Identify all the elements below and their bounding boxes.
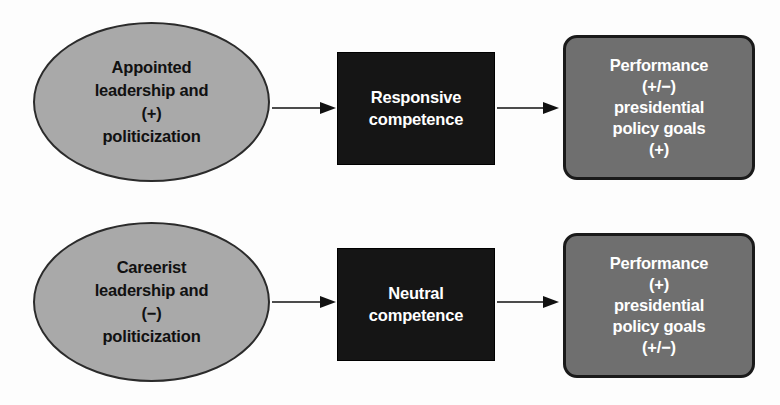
node-line: Neutral (388, 283, 443, 304)
node-line: (+) (649, 139, 669, 160)
node-line: Appointed (112, 56, 192, 79)
arrow-neutral-to-performance (497, 294, 559, 310)
node-line: (+/−) (642, 76, 676, 97)
node-line: policy goals (613, 316, 706, 337)
node-appointed-leadership: Appointed leadership and (+) politicizat… (33, 22, 270, 182)
node-line: leadership and (95, 79, 209, 102)
node-line: presidential (614, 295, 704, 316)
node-line: presidential (614, 97, 704, 118)
node-line: competence (369, 109, 463, 130)
node-line: politicization (102, 325, 200, 348)
node-line: (−) (141, 302, 161, 325)
arrow-appointed-to-responsive (272, 100, 336, 116)
node-line: leadership and (95, 279, 209, 302)
node-line: (+) (141, 102, 161, 125)
node-line: (+/−) (642, 337, 676, 358)
node-performance-policy-goals-top: Performance (+/−) presidential policy go… (563, 35, 755, 180)
node-line: Careerist (117, 256, 187, 279)
arrow-responsive-to-performance (497, 100, 559, 116)
node-careerist-leadership: Careerist leadership and (−) politicizat… (33, 222, 270, 382)
node-line: Responsive (371, 87, 462, 108)
node-line: policy goals (613, 118, 706, 139)
node-line: Performance (610, 55, 709, 76)
node-line: politicization (102, 125, 200, 148)
arrow-careerist-to-neutral (272, 294, 336, 310)
node-line: competence (369, 305, 463, 326)
node-line: (+) (649, 274, 669, 295)
node-performance-policy-goals-bottom: Performance (+) presidential policy goal… (563, 233, 755, 378)
node-line: Performance (610, 253, 709, 274)
diagram-canvas: Appointed leadership and (+) politicizat… (0, 0, 780, 405)
node-neutral-competence: Neutral competence (337, 248, 495, 361)
node-responsive-competence: Responsive competence (337, 52, 495, 165)
